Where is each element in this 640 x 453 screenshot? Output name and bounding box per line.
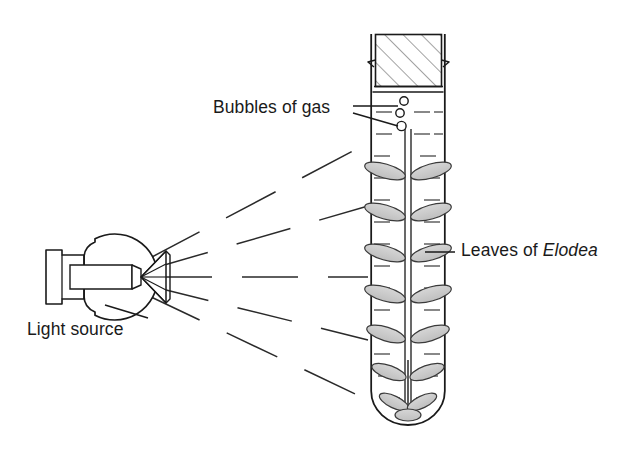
gas-bubble	[400, 97, 408, 105]
bulb-stem-tip	[132, 265, 141, 289]
rubber-stopper-group	[368, 35, 449, 87]
light-ray-2	[154, 206, 368, 268]
light-ray-1	[150, 143, 368, 258]
light-ray-5	[149, 296, 368, 400]
photosynthesis-diagram: Bubbles of gas Leaves of Elodea Light so…	[0, 0, 640, 453]
gas-bubble	[396, 109, 404, 117]
label-bubbles-of-gas: Bubbles of gas	[213, 97, 330, 118]
bulb-stem-tube	[70, 265, 132, 289]
label-light-source: Light source	[27, 319, 124, 340]
test-tube-group	[363, 34, 453, 425]
leaf-terminal	[395, 409, 421, 421]
diagram-canvas	[0, 0, 640, 453]
stopper-body	[376, 35, 442, 87]
light-rays-group	[149, 143, 368, 400]
light-bulb-group	[46, 234, 170, 320]
label-leaves-prefix: Leaves of	[461, 240, 543, 260]
gas-bubble	[397, 121, 406, 130]
label-species-elodea: Elodea	[543, 240, 598, 260]
label-leaves-of-elodea: Leaves of Elodea	[461, 240, 598, 261]
